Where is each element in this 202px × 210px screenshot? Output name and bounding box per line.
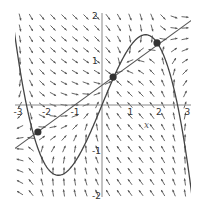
y-tick-label: -1 — [92, 146, 101, 156]
x-tick-label: 3 — [185, 107, 191, 117]
arrow-head-icon — [74, 157, 76, 159]
arrow-head-icon — [186, 27, 188, 29]
arrow-head-icon — [52, 179, 54, 181]
x-tick-label: -2 — [42, 107, 51, 117]
arrow-head-icon — [65, 115, 67, 117]
arrow-head-icon — [85, 135, 87, 137]
equilibrium-point — [34, 128, 41, 135]
x-tick-label: -1 — [71, 107, 80, 117]
arrow-head-icon — [140, 40, 142, 42]
arrow-head-icon — [63, 168, 65, 170]
y-tick-label: 2 — [92, 11, 98, 21]
x-tick-label: -3 — [14, 107, 23, 117]
arrow-head-icon — [63, 179, 65, 181]
arrow-head-icon — [184, 135, 186, 137]
arrow-head-icon — [173, 80, 175, 82]
arrow-head-icon — [186, 16, 188, 18]
arrow-head-icon — [74, 168, 76, 170]
equilibrium-point — [110, 74, 117, 81]
x-tick-label: 1 — [128, 107, 134, 117]
x-tick-label: 2 — [156, 107, 162, 117]
arrow-head-icon — [17, 148, 19, 150]
arrow-head-icon — [52, 168, 54, 170]
arrow-head-icon — [184, 168, 186, 170]
direction-field-plot: -3-2-112321-1-2x — [0, 0, 202, 210]
equilibrium-point — [153, 39, 160, 46]
y-tick-label: -2 — [92, 191, 101, 201]
arrow-head-icon — [85, 146, 87, 148]
y-tick-label: 1 — [92, 56, 98, 66]
axis-letter-label: x — [144, 120, 149, 130]
arrow-head-icon — [184, 157, 186, 159]
